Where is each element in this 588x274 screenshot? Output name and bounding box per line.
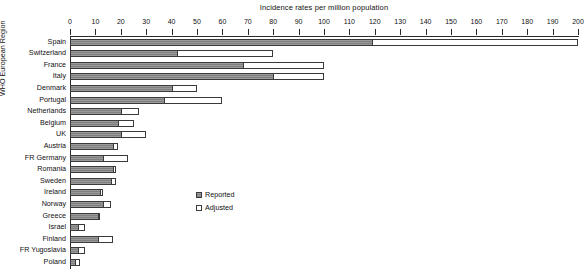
x-axis-tick-mark [70,29,71,35]
x-axis-tick-mark [95,29,96,35]
chart-bar-row: Belgium [70,118,578,130]
plot-area: SpainSwitzerlandFranceItalyDenmarkPortug… [70,37,578,269]
chart-bar-row: Portugal [70,95,578,107]
chart-bar-row: Sweden [70,176,578,188]
x-axis-tick-label: 10 [91,18,99,25]
category-label: Ireland [44,188,66,196]
bar-adjusted [70,213,100,220]
x-axis-tick-mark [375,29,376,35]
x-axis-tick-label: 100 [318,18,330,25]
category-label: Belgium [40,119,66,127]
bar-reported [71,214,99,219]
chart-bar-row: Italy [70,72,578,84]
x-axis-tick-label: 80 [269,18,277,25]
bar-reported [71,144,114,149]
x-axis-tick-mark [553,29,554,35]
y-axis-title: WHO European Region [0,20,7,96]
category-label: Netherlands [27,107,66,115]
x-axis-tick-mark [502,29,503,35]
legend-item: Adjusted [196,202,235,213]
x-axis-tick-mark [426,29,427,35]
bar-adjusted [70,155,128,162]
chart-bar-row: FR Yugoslavia [70,246,578,258]
x-axis-tick-mark [451,29,452,35]
x-axis-tick-label: 90 [295,18,303,25]
bar-reported [71,156,104,161]
chart-bar-row: UK [70,130,578,142]
bar-adjusted [70,189,103,196]
x-axis-tick-label: 190 [547,18,559,25]
bar-adjusted [70,50,273,57]
chart-bar-row: Denmark [70,83,578,95]
bar-reported [71,167,114,172]
bar-reported [71,237,99,242]
x-axis-tick-mark [324,29,325,35]
x-axis-tick-label: 130 [394,18,406,25]
bar-adjusted [70,224,85,231]
x-axis-tick-label: 120 [369,18,381,25]
x-axis: 0102030405060708090100110120130140150160… [70,18,578,38]
category-label: Israel [48,223,66,231]
bar-reported [71,74,274,79]
chart-bar-row: Netherlands [70,107,578,119]
bar-adjusted [70,131,146,138]
chart-title: Incidence rates per million population [70,3,578,12]
category-label: Switzerland [29,49,66,57]
x-axis-tick-label: 150 [445,18,457,25]
legend-label: Reported [205,190,235,199]
bar-adjusted [70,62,324,69]
chart-legend: ReportedAdjusted [196,189,235,215]
category-label: Austria [44,142,66,150]
category-label: Poland [44,258,66,266]
bar-reported [71,132,122,137]
bar-adjusted [70,201,111,208]
chart-bar-row: Switzerland [70,49,578,61]
category-label: France [44,61,66,69]
x-axis-tick-mark [578,29,579,35]
bar-reported [71,190,101,195]
x-axis-tick-mark [121,29,122,35]
bar-adjusted [70,73,324,80]
category-label: Greece [42,212,66,220]
bar-reported [71,40,373,45]
x-axis-tick-label: 0 [68,18,72,25]
x-axis-tick-mark [248,29,249,35]
chart-bar-row: France [70,60,578,72]
x-axis-tick-label: 110 [344,18,355,25]
bar-adjusted [70,97,222,104]
category-label: Finland [42,235,66,243]
category-label: Romania [37,165,66,173]
x-axis-tick-label: 30 [142,18,150,25]
bar-adjusted [70,259,80,266]
category-label: Spain [48,38,66,46]
bar-reported [71,51,178,56]
legend-item: Reported [196,189,235,200]
chart-bar-row: Norway [70,199,578,211]
x-axis-tick-label: 170 [496,18,508,25]
category-label: FR Germany [25,154,66,162]
bar-reported [71,260,76,265]
category-label: Portugal [39,96,66,104]
chart-bar-row: Poland [70,257,578,269]
chart-bar-row: Austria [70,141,578,153]
bar-reported [71,63,244,68]
x-axis-tick-mark [197,29,198,35]
bar-adjusted [70,143,118,150]
bar-adjusted [70,39,578,46]
chart-bar-row: FR Germany [70,153,578,165]
x-axis-tick-label: 20 [117,18,125,25]
bar-adjusted [70,108,139,115]
chart-bar-row: Greece [70,211,578,223]
bar-reported [71,109,122,114]
x-axis-tick-mark [222,29,223,35]
category-label: Denmark [37,84,66,92]
bar-adjusted [70,178,116,185]
category-label: FR Yugoslavia [20,246,66,254]
chart-bar-row: Ireland [70,188,578,200]
bar-reported [71,86,173,91]
x-axis-tick-mark [273,29,274,35]
bar-reported [71,225,79,230]
bar-reported [71,179,112,184]
x-axis-tick-mark [349,29,350,35]
x-axis-tick-label: 180 [521,18,533,25]
